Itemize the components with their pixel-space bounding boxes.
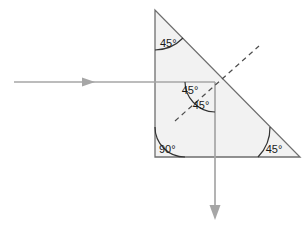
optics-diagram-canvas: 45° 45° 45° 90° 45° <box>0 0 308 236</box>
incident-ray-arrowhead <box>82 78 95 87</box>
apex-angle-label: 45° <box>160 37 177 49</box>
incident-angle-label: 45° <box>182 84 199 96</box>
prism-shape <box>155 10 300 157</box>
base-angle-label: 45° <box>266 143 283 155</box>
right-angle-label: 90° <box>159 143 176 155</box>
reflection-angle-label: 45° <box>193 99 210 111</box>
reflected-ray-arrowhead <box>210 205 221 220</box>
ray-diagram-svg: 45° 45° 45° 90° 45° <box>0 0 308 236</box>
